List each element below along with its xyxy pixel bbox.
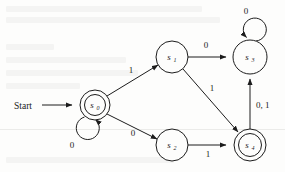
transition-label-s1-s4: 1 bbox=[210, 83, 215, 93]
state-s3[interactable]: s 3 bbox=[233, 40, 267, 74]
state-s0-label: s bbox=[90, 100, 94, 110]
transition-s3-to-s3[interactable]: 0 bbox=[243, 6, 266, 41]
state-s2-circle bbox=[156, 129, 188, 161]
transition-s2-to-s4[interactable]: 1 bbox=[188, 145, 226, 159]
state-s1-label: s bbox=[167, 52, 171, 62]
state-s4-subscript: 4 bbox=[252, 145, 255, 151]
transition-label-s3-s3: 0 bbox=[244, 6, 249, 16]
transition-label-s4-s3: 0, 1 bbox=[256, 100, 270, 110]
transition-label-s2-s4: 1 bbox=[206, 149, 211, 159]
state-s1-circle bbox=[156, 41, 188, 73]
state-s4[interactable]: s 4 bbox=[234, 129, 266, 161]
figure-canvas: 0 1 0 0 1 1 0, 1 bbox=[0, 0, 285, 172]
state-s3-circle bbox=[233, 40, 267, 74]
transition-label-s0-s2: 0 bbox=[131, 128, 136, 138]
state-s2-label: s bbox=[167, 140, 171, 150]
state-machine-diagram: 0 1 0 0 1 1 0, 1 bbox=[0, 0, 285, 172]
transition-label-s0-s1: 1 bbox=[129, 65, 134, 75]
state-s1[interactable]: s 1 bbox=[156, 41, 188, 73]
state-s1-subscript: 1 bbox=[174, 57, 177, 63]
transition-label-s0-s0: 0 bbox=[70, 140, 75, 150]
transition-s1-to-s4[interactable]: 1 bbox=[183, 69, 238, 132]
state-s3-label: s bbox=[245, 52, 249, 62]
transition-s0-to-s2[interactable]: 0 bbox=[107, 114, 157, 139]
transition-s1-to-s3[interactable]: 0 bbox=[188, 40, 226, 57]
transition-s0-to-s0[interactable]: 0 bbox=[70, 117, 100, 150]
state-s3-subscript: 3 bbox=[251, 57, 255, 63]
transition-s0-to-s1[interactable]: 1 bbox=[107, 65, 158, 96]
transition-s4-to-s3[interactable]: 0, 1 bbox=[250, 79, 270, 129]
state-s4-inner-circle bbox=[239, 134, 262, 157]
start-label: Start bbox=[14, 101, 32, 111]
state-s0-inner-circle bbox=[85, 95, 106, 116]
state-s0[interactable]: s 0 bbox=[80, 90, 110, 120]
state-s2-subscript: 2 bbox=[174, 145, 177, 151]
state-s0-subscript: 0 bbox=[97, 105, 100, 111]
state-s4-label: s bbox=[245, 140, 249, 150]
transition-label-s1-s3: 0 bbox=[204, 40, 209, 50]
state-s2[interactable]: s 2 bbox=[156, 129, 188, 161]
